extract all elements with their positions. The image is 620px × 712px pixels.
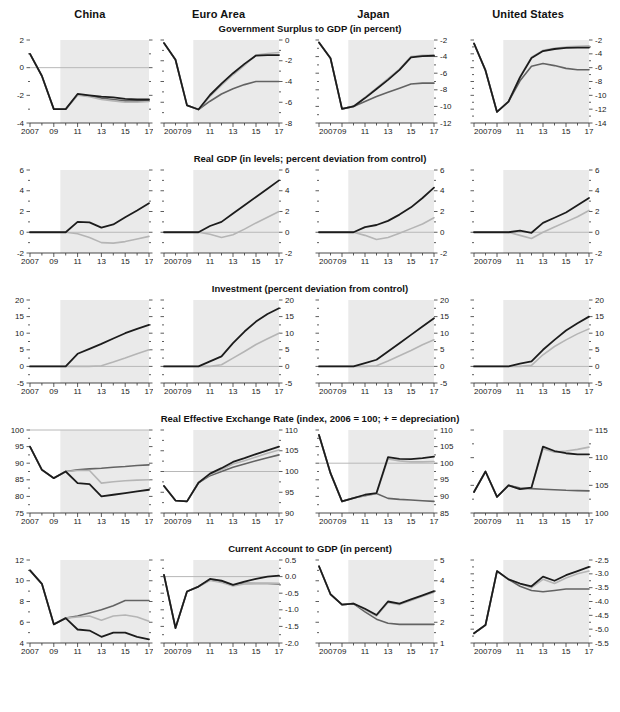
line-chart: 110105100959020070911131517 [158,425,308,533]
x-tick-label: 2007 [319,647,337,656]
chart-government-surplus-united-states: -2-4-6-8-10-12-1420070911131517 [468,35,618,143]
x-tick-label: 13 [384,127,393,136]
forecast-shade-region [503,40,589,123]
y-tick-label: 2 [440,207,445,216]
y-tick-label: 15 [595,312,604,321]
y-tick-label: -4.0 [595,597,609,606]
forecast-shade-region [348,170,434,253]
y-tick-label: 5 [285,345,290,354]
x-tick-label: 11 [361,127,370,136]
column-header-euro-area: Euro Area [158,8,308,20]
line-chart: -2-4-6-8-10-12-1420070911131517 [468,35,618,143]
x-tick-label: 09 [493,517,502,526]
x-tick-label: 09 [49,387,58,396]
y-tick-label: 5 [440,345,445,354]
chart-reer-united-states: 11511010510020070911131517 [468,425,618,533]
chart-real-gdp-euro-area: 6420-220070911131517 [158,165,308,273]
forecast-shade-region [503,430,589,513]
line-chart: 20151050-520070911131517 [468,295,618,403]
y-tick-label: 10 [285,329,294,338]
x-tick-label: 13 [97,127,106,136]
chart-current-account-euro-area: 0.50.0-0.5-1.0-1.5-2.020070911131517 [158,555,308,663]
line-chart: 6420-220070911131517 [158,165,308,273]
y-tick-label: 1 [440,639,445,648]
line-chart: 100959085807520070911131517 [3,425,153,533]
chart-grid: 100959085807520070911131517 110105100959… [0,425,620,533]
x-tick-label: 11 [73,257,82,266]
y-tick-label: 20 [595,296,604,305]
y-tick-label: 0 [20,228,25,237]
x-tick-label: 2007 [21,127,39,136]
x-tick-label: 13 [539,257,548,266]
row-government-surplus: Government Surplus to GDP (in percent) 2… [0,23,620,143]
column-header-united-states: United States [467,8,617,20]
x-tick-label: 09 [338,517,347,526]
x-tick-label: 17 [585,127,594,136]
x-tick-label: 11 [361,517,370,526]
y-tick-label: -6 [595,63,603,72]
y-tick-label: 0.5 [285,556,297,565]
x-tick-label: 2007 [474,127,492,136]
y-tick-label: -6 [285,98,293,107]
y-tick-label: 4 [285,186,290,195]
x-tick-label: 11 [361,387,370,396]
x-tick-label: 13 [229,127,238,136]
line-chart: 0-2-4-6-820070911131517 [158,35,308,143]
x-tick-label: 09 [338,647,347,656]
x-tick-label: 15 [562,517,571,526]
line-chart: -2-4-6-8-10-1220070911131517 [313,35,463,143]
x-tick-label: 17 [430,647,439,656]
y-tick-label: 6 [595,166,600,175]
y-tick-label: -4.5 [595,611,609,620]
forecast-shade-region [193,300,279,383]
x-tick-label: 2007 [319,387,337,396]
x-tick-label: 15 [562,387,571,396]
line-chart: 11511010510020070911131517 [468,425,618,533]
x-tick-label: 09 [183,517,192,526]
y-tick-label: 85 [15,475,24,484]
y-tick-label: -3.5 [595,583,609,592]
forecast-shade-region [193,560,279,643]
x-tick-label: 09 [493,647,502,656]
y-tick-label: 0 [20,63,25,72]
x-tick-label: 11 [206,647,215,656]
y-tick-label: -5 [285,379,293,388]
y-tick-label: 100 [285,467,299,476]
y-tick-label: -2.5 [595,556,609,565]
x-tick-label: 2007 [164,127,182,136]
x-tick-label: 2007 [164,517,182,526]
y-tick-label: 95 [440,475,449,484]
chart-investment-japan: 20151050-520070911131517 [313,295,463,403]
x-tick-label: 09 [493,127,502,136]
y-tick-label: 10 [595,329,604,338]
row-title-current-account: Current Account to GDP (in percent) [0,543,620,554]
y-tick-label: -0.5 [285,589,299,598]
y-tick-label: -2.0 [285,639,299,648]
x-tick-label: 09 [493,257,502,266]
line-chart: 20-2-420070911131517 [3,35,153,143]
line-chart: 5432120070911131517 [313,555,463,663]
y-tick-label: 5 [595,345,600,354]
x-tick-label: 09 [338,257,347,266]
y-tick-label: 6 [285,166,290,175]
chart-government-surplus-euro-area: 0-2-4-6-820070911131517 [158,35,308,143]
line-chart: 6420-220070911131517 [468,165,618,273]
x-tick-label: 13 [97,517,106,526]
y-tick-label: 6 [20,618,25,627]
x-tick-label: 09 [183,387,192,396]
column-header-china: China [3,8,153,20]
line-chart: 11010510095908520070911131517 [313,425,463,533]
x-tick-label: 13 [97,387,106,396]
x-tick-label: 2007 [319,517,337,526]
y-tick-label: 110 [440,426,453,435]
x-tick-label: 11 [206,127,215,136]
x-tick-label: 13 [384,387,393,396]
y-tick-label: 90 [285,509,294,518]
y-tick-label: -12 [595,105,607,114]
y-tick-label: -3.0 [595,569,609,578]
x-tick-label: 15 [562,257,571,266]
y-tick-label: 80 [15,492,24,501]
forecast-shade-region [503,300,589,383]
y-tick-label: -2 [17,91,25,100]
x-tick-label: 09 [49,517,58,526]
